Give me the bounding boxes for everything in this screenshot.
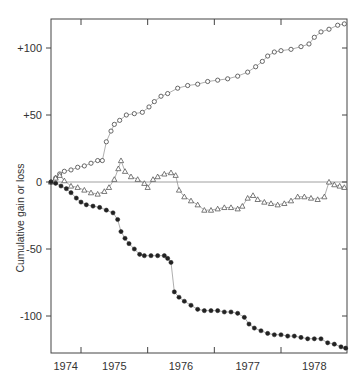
data-point xyxy=(259,329,263,333)
x-axis-ticks: 19741975197619771978 xyxy=(53,19,326,372)
data-point xyxy=(262,200,267,205)
data-point xyxy=(202,309,206,313)
data-point xyxy=(118,158,123,163)
y-tick-label: -50 xyxy=(26,243,42,255)
data-point xyxy=(188,198,193,203)
x-tick-label: 1978 xyxy=(302,360,326,372)
data-point xyxy=(332,342,336,346)
x-tick-label: 1976 xyxy=(169,360,193,372)
series-open-circles xyxy=(49,22,347,184)
data-point xyxy=(127,242,131,246)
data-point xyxy=(142,181,147,186)
data-point xyxy=(189,303,193,307)
series-layer xyxy=(48,22,347,350)
data-point xyxy=(266,54,270,58)
data-point xyxy=(123,236,127,240)
data-point xyxy=(299,335,303,339)
data-point xyxy=(236,74,240,78)
data-point xyxy=(245,195,250,200)
x-tick-label: 1974 xyxy=(53,360,77,372)
data-point xyxy=(69,191,73,195)
data-point xyxy=(89,161,93,165)
data-point xyxy=(149,254,153,258)
data-point xyxy=(172,290,176,294)
data-point xyxy=(272,333,276,337)
data-point xyxy=(152,100,156,104)
data-point xyxy=(229,310,233,314)
data-point xyxy=(279,49,283,53)
data-point xyxy=(142,254,146,258)
data-point xyxy=(326,341,330,345)
data-point xyxy=(209,309,213,313)
data-point xyxy=(82,164,86,168)
data-point xyxy=(254,65,258,69)
data-point xyxy=(252,326,256,330)
data-point xyxy=(342,22,346,26)
data-point xyxy=(79,200,83,204)
data-point xyxy=(156,254,160,258)
data-point xyxy=(168,170,173,175)
data-point xyxy=(339,345,343,349)
data-point xyxy=(147,105,151,109)
data-point xyxy=(112,177,117,182)
data-point xyxy=(336,23,340,27)
data-point xyxy=(247,322,251,326)
data-point xyxy=(246,70,250,74)
data-point xyxy=(116,217,120,221)
data-point xyxy=(182,299,186,303)
data-point xyxy=(138,252,142,256)
data-point xyxy=(119,229,123,233)
data-point xyxy=(282,201,287,206)
data-point xyxy=(91,204,95,208)
data-point xyxy=(322,194,327,199)
y-tick-label: -100 xyxy=(20,310,42,322)
data-point xyxy=(196,307,200,311)
data-point xyxy=(327,27,331,31)
data-point xyxy=(195,202,200,207)
data-point xyxy=(122,169,127,174)
data-point xyxy=(76,165,80,169)
data-point xyxy=(124,113,128,117)
data-point xyxy=(155,174,160,179)
data-point xyxy=(260,59,264,63)
data-point xyxy=(112,122,116,126)
data-point xyxy=(49,180,53,184)
data-point xyxy=(68,183,73,188)
data-point xyxy=(196,82,200,86)
data-point xyxy=(307,42,311,46)
data-point xyxy=(140,110,144,114)
y-tick-label: +100 xyxy=(17,42,42,54)
data-point xyxy=(299,45,303,49)
data-point xyxy=(176,86,180,90)
data-point xyxy=(250,193,255,198)
data-point xyxy=(216,78,220,82)
data-point xyxy=(292,334,296,338)
data-point xyxy=(344,346,348,350)
data-point xyxy=(166,91,170,95)
data-point xyxy=(319,30,323,34)
data-point xyxy=(116,166,121,171)
data-point xyxy=(279,333,283,337)
data-point xyxy=(159,94,163,98)
data-point xyxy=(54,181,58,185)
data-point xyxy=(177,295,181,299)
data-point xyxy=(312,35,316,39)
data-point xyxy=(289,47,293,51)
data-point xyxy=(82,187,87,192)
data-point xyxy=(166,256,170,260)
data-point xyxy=(74,196,78,200)
data-point xyxy=(109,129,113,133)
data-point xyxy=(226,77,230,81)
data-point xyxy=(96,158,100,162)
data-point xyxy=(98,205,102,209)
x-tick-label: 1977 xyxy=(235,360,259,372)
data-point xyxy=(206,79,210,83)
x-tick-label: 1975 xyxy=(102,360,126,372)
data-point xyxy=(332,182,337,187)
data-point xyxy=(312,337,316,341)
plot-frame xyxy=(51,19,347,353)
data-point xyxy=(111,211,115,215)
data-point xyxy=(186,83,190,87)
data-point xyxy=(272,50,276,54)
data-point xyxy=(319,337,323,341)
